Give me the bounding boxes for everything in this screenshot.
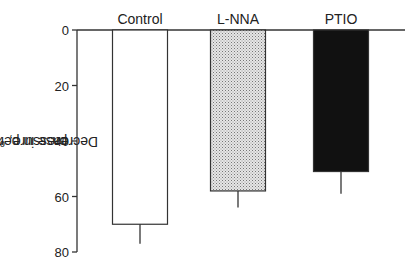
y-tick-label: 40 [55, 134, 69, 149]
bar-l-nna [211, 30, 266, 191]
category-labels: ControlL-NNAPTIO [117, 11, 357, 27]
y-tick-label: 20 [55, 79, 69, 94]
bars [113, 30, 369, 244]
bar-control [113, 30, 168, 224]
y-tick-label: 0 [62, 23, 69, 38]
bar-chart: 020406080 ControlL-NNAPTIO [0, 0, 418, 272]
category-label-l-nna: L-NNA [217, 11, 260, 27]
y-tick-label: 60 [55, 190, 69, 205]
category-label-ptio: PTIO [325, 11, 358, 27]
bar-ptio [314, 30, 369, 172]
y-tick-label: 80 [55, 245, 69, 260]
category-label-control: Control [117, 11, 162, 27]
